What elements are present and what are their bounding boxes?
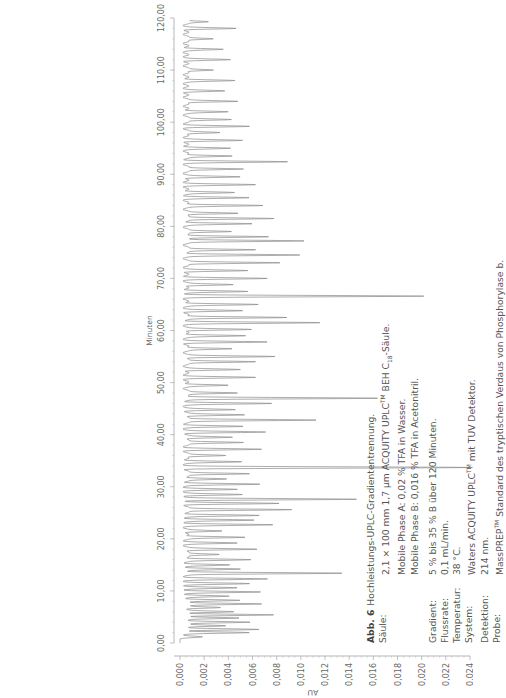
y-tick-label: 0,008 [273, 663, 282, 686]
caption-row: Gradient:5 % bis 35 % B über 120 Minuten… [427, 3, 439, 643]
caption-row: Flussrate:0,1 mL/min. [439, 3, 451, 643]
x-axis-minutes: 0,0010,0020,0030,0040,0050,0060,0070,008… [157, 4, 174, 652]
figure-label: Abb. 6 [365, 610, 377, 643]
x-tick-label: 60,00 [157, 319, 166, 342]
x-tick-label: 100,00 [157, 108, 166, 136]
x-tick-label: 10,00 [157, 579, 166, 602]
y-axis-au: 0,0000,0020,0040,0060,0080,0100,0120,014… [174, 656, 473, 686]
caption-row: Mobile Phase A: 0,02 % TFA in Wasser. [396, 3, 408, 643]
y-tick-label: 0,022 [442, 663, 451, 686]
x-tick-label: 70,00 [157, 267, 166, 290]
caption-key: Säule: [377, 575, 396, 643]
y-tick-label: 0,010 [297, 663, 306, 686]
y-tick-label: 0,014 [345, 663, 354, 686]
y-tick-label: 0,002 [200, 663, 209, 686]
caption-value: 0,1 mL/min. [439, 3, 451, 575]
x-tick-label: 110,00 [157, 56, 166, 84]
caption-row: System:Waters ACQUITY UPLCTM mit TUV Det… [463, 3, 478, 643]
caption-row: Probe:MassPREPTM Standard des tryptische… [491, 3, 506, 643]
caption-value: 214 nm. [479, 3, 491, 575]
x-axis-title: Minuten [145, 315, 154, 346]
y-tick-label: 0,018 [394, 663, 403, 686]
y-axis-title: AU [308, 688, 319, 697]
caption-title-row: Abb. 6 Hochleistungs-UPLC-Gradiententren… [365, 3, 377, 643]
caption-key: Detektion: [479, 575, 491, 643]
caption-key: Gradient: [427, 575, 439, 643]
caption-row: Mobile Phase B: 0,016 % TFA in Acetonitr… [409, 3, 421, 643]
x-tick-label: 50,00 [157, 371, 166, 394]
y-tick-label: 0,024 [466, 663, 473, 686]
caption-parameter-list: Säule:2,1 × 100 mm 1,7 µm ACQUITY UPLCTM… [377, 3, 506, 643]
caption-key: System: [463, 575, 478, 643]
figure-caption: Abb. 6 Hochleistungs-UPLC-Gradiententren… [365, 3, 506, 643]
x-tick-label: 80,00 [157, 215, 166, 238]
caption-value: 38 °C. [451, 3, 463, 575]
caption-key [396, 575, 408, 643]
caption-value: Mobile Phase A: 0,02 % TFA in Wasser. [396, 3, 408, 575]
y-tick-label: 0,020 [418, 663, 427, 686]
caption-row: Säule:2,1 × 100 mm 1,7 µm ACQUITY UPLCTM… [377, 3, 396, 643]
caption-value: 2,1 × 100 mm 1,7 µm ACQUITY UPLCTM BEH C… [377, 3, 396, 575]
x-tick-label: 90,00 [157, 163, 166, 186]
x-tick-label: 30,00 [157, 475, 166, 498]
caption-key: Temperatur: [451, 575, 463, 643]
x-tick-label: 40,00 [157, 423, 166, 446]
caption-row: Temperatur:38 °C. [451, 3, 463, 643]
caption-row: Detektion:214 nm. [479, 3, 491, 643]
y-tick-label: 0,000 [176, 663, 185, 686]
caption-key [409, 575, 421, 643]
caption-value: Waters ACQUITY UPLCTM mit TUV Detektor. [463, 3, 478, 575]
y-tick-label: 0,006 [249, 663, 258, 686]
y-tick-label: 0,004 [224, 663, 233, 686]
caption-value: Mobile Phase B: 0,016 % TFA in Acetonitr… [409, 3, 421, 575]
x-tick-label: 120,00 [157, 4, 166, 32]
x-tick-label: 0,00 [157, 634, 166, 652]
figure-title: Hochleistungs-UPLC-Gradiententrennung. [365, 414, 377, 606]
caption-value: 5 % bis 35 % B über 120 Minuten. [427, 3, 439, 575]
y-tick-label: 0,016 [369, 663, 378, 686]
y-tick-label: 0,012 [321, 663, 330, 686]
caption-value: MassPREPTM Standard des tryptischen Verd… [491, 3, 506, 575]
caption-key: Probe: [491, 575, 506, 643]
x-tick-label: 20,00 [157, 527, 166, 550]
caption-key: Flussrate: [439, 575, 451, 643]
